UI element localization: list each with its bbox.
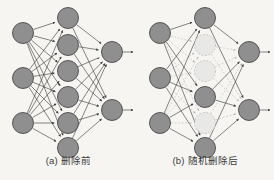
neuron-node-active (150, 68, 171, 89)
neuron-node-active (58, 8, 79, 29)
panel-before-dropout: (a) 删除前 (0, 0, 137, 180)
neuron-node-dropped (195, 113, 216, 134)
neuron-node-active (13, 68, 34, 89)
neuron-node-active (150, 113, 171, 134)
neuron-node-active (239, 42, 260, 63)
neuron-node-active (58, 61, 79, 82)
panel-after-dropout: (b) 随机删除后 (137, 0, 274, 180)
neuron-node-dropped (195, 61, 216, 82)
neuron-node-active (239, 100, 260, 121)
neuron-node-active (13, 113, 34, 134)
neuron-node-active (58, 87, 79, 108)
neuron-node-active (195, 8, 216, 29)
neuron-node-active (195, 87, 216, 108)
dropout-figure: (a) 删除前 (b) 随机删除后 (0, 0, 274, 180)
neuron-node-active (102, 42, 123, 63)
neuron-node-active (58, 113, 79, 134)
caption-panel-a: (a) 删除前 (0, 154, 137, 167)
network-diagram-before (0, 0, 137, 158)
neuron-node-active (150, 23, 171, 44)
caption-panel-b: (b) 随机删除后 (137, 154, 274, 167)
network-diagram-after (137, 0, 274, 158)
neuron-node-dropped (195, 35, 216, 56)
neuron-node-active (102, 100, 123, 121)
neuron-node-active (58, 35, 79, 56)
neuron-node-active (13, 23, 34, 44)
